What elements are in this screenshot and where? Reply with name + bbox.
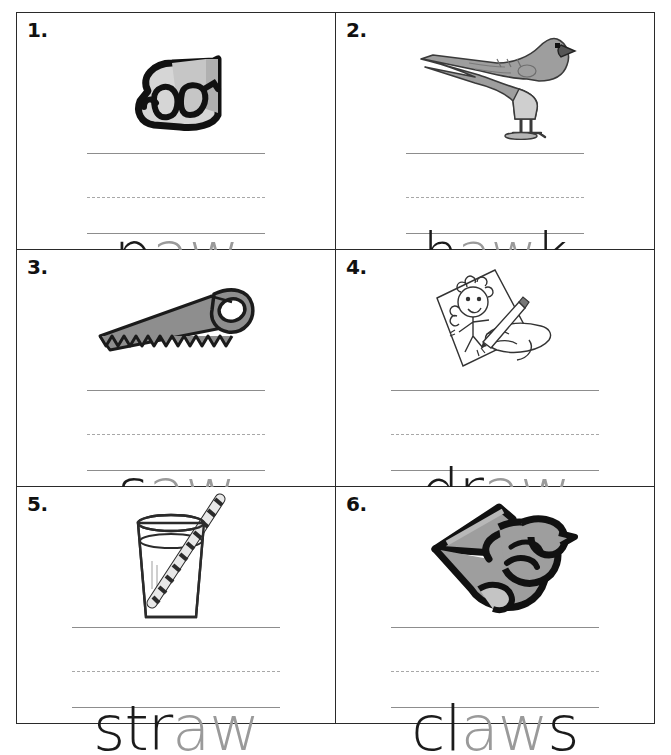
draw-illustration: [336, 256, 654, 388]
word-light-part: aw: [172, 707, 259, 752]
line-top: [87, 153, 265, 154]
grid-row: 3. saw: [17, 250, 655, 487]
word-dark-prefix: str: [93, 707, 172, 752]
worksheet-cell-2[interactable]: 2.: [336, 13, 655, 250]
word-dark-prefix: cl: [411, 707, 460, 752]
handwriting-lines: draw: [391, 390, 599, 478]
line-top: [391, 390, 599, 391]
worksheet-cell-5[interactable]: 5.: [17, 487, 336, 724]
worksheet-cell-4[interactable]: 4.: [336, 250, 655, 487]
line-middle-dashed: [72, 671, 280, 672]
worksheet-cell-6[interactable]: 6.: [336, 487, 655, 724]
line-top: [72, 627, 280, 628]
line-top: [391, 627, 599, 628]
word-dark-suffix: s: [547, 707, 578, 752]
line-middle-dashed: [87, 434, 265, 435]
worksheet-sheet: 1. paw: [16, 12, 655, 720]
claws-illustration: [336, 493, 654, 625]
line-middle-dashed: [87, 197, 265, 198]
handwriting-lines: claws: [391, 627, 599, 715]
worksheet-cell-3[interactable]: 3. saw: [17, 250, 336, 487]
grid-row: 1. paw: [17, 13, 655, 250]
worksheet-cell-1[interactable]: 1. paw: [17, 13, 336, 250]
worksheet-grid: 1. paw: [16, 12, 655, 724]
hawk-illustration: [336, 19, 654, 151]
line-middle-dashed: [406, 197, 584, 198]
saw-illustration: [17, 256, 335, 388]
line-top: [87, 390, 265, 391]
line-middle-dashed: [391, 671, 599, 672]
handwriting-lines: hawk: [406, 153, 584, 241]
word-claws: claws: [391, 707, 599, 752]
paw-illustration: [17, 19, 335, 151]
word-straw: straw: [72, 707, 280, 752]
line-top: [406, 153, 584, 154]
straw-illustration: [17, 493, 335, 625]
handwriting-lines: paw: [87, 153, 265, 241]
handwriting-lines: saw: [87, 390, 265, 478]
handwriting-lines: straw: [72, 627, 280, 715]
word-light-part: aw: [461, 707, 548, 752]
grid-row: 5.: [17, 487, 655, 724]
line-middle-dashed: [391, 434, 599, 435]
